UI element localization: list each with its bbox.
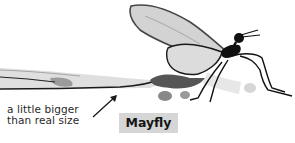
mayfly-tail (0, 68, 165, 89)
arrow-up-right-icon (90, 92, 122, 120)
species-label: Mayfly (119, 113, 178, 133)
mayfly-wing (130, 5, 225, 75)
size-caption: a little bigger than real size (7, 104, 79, 126)
caption-line-2: than real size (7, 115, 79, 126)
